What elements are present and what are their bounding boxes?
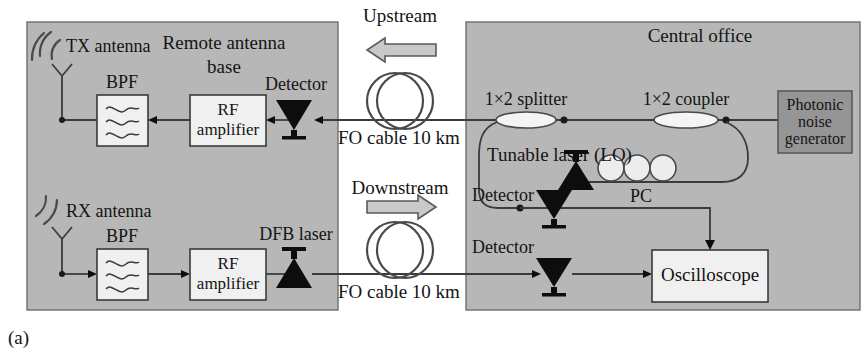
- rx-rf-amplifier-label-line1: RF: [218, 254, 239, 273]
- dfb-laser-label: DFB laser: [259, 224, 333, 244]
- downstream-fiber-spool-icon: [367, 222, 433, 278]
- figure-canvas: Remote antenna base Central office TX an…: [0, 0, 865, 356]
- panel-remote-title-line1: Remote antenna: [163, 32, 286, 53]
- upstream-direction-arrow-icon: [367, 38, 436, 62]
- downstream-direction-arrow-icon: [367, 195, 436, 219]
- system-block-diagram: Remote antenna base Central office TX an…: [0, 0, 865, 356]
- tunable-laser-label: Tunable laser (LO): [487, 144, 632, 166]
- noise-generator-label-line1: Photonic: [787, 96, 844, 113]
- panel-central-title: Central office: [648, 25, 753, 46]
- rx-antenna-label: RX antenna: [66, 201, 151, 221]
- rx-rf-amplifier-label-line2: amplifier: [197, 274, 260, 293]
- tx-rf-amplifier-label-line2: amplifier: [197, 120, 260, 139]
- splitter-1x2-icon: [496, 112, 556, 128]
- oscilloscope-label: Oscilloscope: [661, 264, 759, 285]
- figure-caption: (a): [8, 327, 29, 349]
- splitter-1x2-label: 1×2 splitter: [485, 89, 568, 109]
- coupler-1x2-icon: [654, 112, 718, 128]
- downstream-cable-label: FO cable 10 km: [338, 281, 460, 302]
- polarization-controller-label: PC: [630, 186, 652, 206]
- coupler-1x2-label: 1×2 coupler: [643, 89, 730, 109]
- downstream-label: Downstream: [351, 177, 448, 198]
- noise-generator-label-line3: generator: [785, 130, 846, 148]
- tx-bpf-label: BPF: [106, 72, 138, 92]
- upstream-label: Upstream: [363, 5, 437, 26]
- junction-dot-tx-antenna: [59, 117, 65, 123]
- junction-dot-rx-antenna: [59, 271, 65, 277]
- upstream-detector-label: Detector: [265, 74, 327, 94]
- rx-bpf-label: BPF: [106, 226, 138, 246]
- panel-remote-title-line2: base: [207, 56, 241, 77]
- tx-antenna-label: TX antenna: [66, 36, 150, 56]
- downstream-detector-label: Detector: [472, 237, 534, 257]
- junction-dot-splitter: [561, 117, 568, 124]
- noise-generator-label-line2: noise: [798, 113, 832, 130]
- lo-detector-label: Detector: [472, 185, 534, 205]
- tx-rf-amplifier-label-line1: RF: [218, 100, 239, 119]
- upstream-cable-label: FO cable 10 km: [338, 127, 460, 148]
